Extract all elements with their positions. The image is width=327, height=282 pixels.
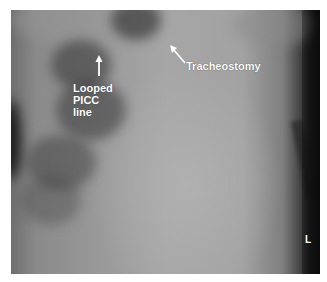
right-shoulder-region bbox=[11, 10, 101, 40]
tracheostomy-arrow-icon bbox=[169, 45, 187, 65]
tracheostomy-label: Tracheostomy bbox=[186, 60, 261, 72]
side-marker-left: L bbox=[305, 234, 311, 245]
left-edge-shadow bbox=[11, 100, 21, 180]
right-base-lung bbox=[21, 175, 81, 225]
picc-label-line-3: line bbox=[73, 106, 113, 118]
neck-region bbox=[111, 10, 161, 40]
picc-arrow-icon bbox=[95, 55, 103, 77]
chest-xray-image bbox=[11, 10, 320, 274]
picc-label-line-2: PICC bbox=[73, 94, 113, 106]
picc-label: Looped PICC line bbox=[73, 82, 113, 118]
picc-label-line-1: Looped bbox=[73, 82, 113, 94]
